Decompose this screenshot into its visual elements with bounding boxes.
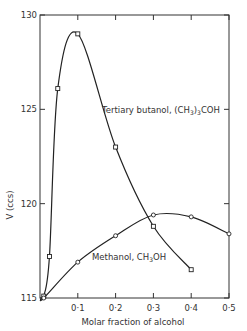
circle-marker: [114, 234, 118, 238]
square-marker: [47, 254, 51, 258]
y-tick-label: 115: [21, 293, 37, 303]
circle-marker: [151, 213, 155, 217]
y-tick-label: 130: [21, 10, 37, 20]
x-axis-ticks: 0·10·20·30·40·5: [71, 15, 236, 313]
circle-marker: [76, 260, 80, 264]
series-label-tertiary-butanol: Tertiary butanol, (CH3)3COH: [101, 105, 220, 116]
volume-chart: 115120125130 0·10·20·30·40·5 Tertiary bu…: [0, 0, 247, 331]
x-tick-label: 0·5: [222, 303, 236, 313]
circle-marker: [227, 232, 231, 236]
circle-marker: [189, 215, 193, 219]
square-marker: [56, 87, 60, 91]
square-marker: [76, 32, 80, 36]
y-tick-label: 120: [21, 199, 37, 209]
x-tick-label: 0·3: [147, 303, 161, 313]
square-marker: [151, 224, 155, 228]
y-tick-label: 125: [21, 104, 37, 114]
x-tick-label: 0·4: [184, 303, 198, 313]
x-tick-label: 0·1: [71, 303, 85, 313]
square-marker: [114, 145, 118, 149]
x-axis-label: Molar fraction of alcohol: [82, 317, 185, 327]
circle-marker: [42, 296, 46, 300]
y-axis-label: V (ccs): [5, 191, 15, 220]
series-label-methanol: Methanol, CH3OH: [92, 252, 166, 263]
x-tick-label: 0·2: [109, 303, 123, 313]
square-marker: [189, 268, 193, 272]
